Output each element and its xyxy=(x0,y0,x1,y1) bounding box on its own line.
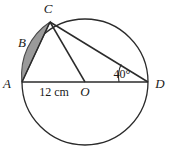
label-point-d: D xyxy=(154,76,165,91)
label-point-c: C xyxy=(44,1,53,16)
label-radius-measure: 12 cm xyxy=(39,85,69,99)
label-point-b: B xyxy=(18,35,26,50)
geometry-canvas: A B C D O 12 cm 40° xyxy=(0,0,169,158)
segment-cd-chord xyxy=(50,22,148,82)
segment-co-radius xyxy=(50,22,85,82)
label-angle-d: 40° xyxy=(114,67,131,81)
label-point-a: A xyxy=(2,76,11,91)
label-point-o: O xyxy=(80,84,90,99)
geometry-figure: A B C D O 12 cm 40° xyxy=(0,0,169,158)
